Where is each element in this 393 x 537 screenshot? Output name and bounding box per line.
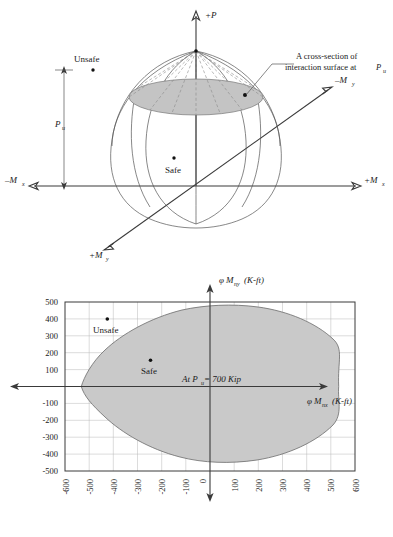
figure-svg: +P –M x +M x –M y +M y — [0, 0, 393, 537]
svg-text:-300: -300 — [133, 479, 143, 495]
svg-text:–M: –M — [4, 175, 18, 185]
svg-text:y: y — [351, 81, 355, 87]
callout-line1: A cross-section of — [296, 51, 358, 61]
my-neg-axis-label: –M y — [334, 75, 355, 87]
safe-point-label: Safe — [141, 366, 157, 376]
pu-dimension-label: P u — [54, 119, 65, 131]
unsafe-point-3d — [91, 68, 94, 71]
svg-text:-400: -400 — [42, 449, 58, 459]
apex-point — [194, 49, 198, 53]
svg-text:–M: –M — [334, 75, 348, 85]
callout-line2: interaction surface at P u — [285, 62, 386, 74]
svg-text:x: x — [381, 181, 385, 187]
unsafe-point-marker — [106, 317, 110, 321]
svg-text:y: y — [105, 256, 109, 262]
svg-text:= 700 Kip: = 700 Kip — [204, 374, 242, 384]
svg-text:100: 100 — [45, 365, 58, 375]
svg-text:φ: φ — [307, 396, 312, 406]
svg-text:x: x — [21, 181, 25, 187]
svg-text:At P: At P — [181, 374, 198, 384]
svg-text:+M: +M — [89, 250, 103, 260]
svg-text:400: 400 — [45, 314, 58, 324]
safe-label-3d: Safe — [165, 165, 181, 175]
svg-text:-300: -300 — [42, 432, 58, 442]
svg-text:interaction surface at: interaction surface at — [285, 62, 357, 72]
svg-text:(K-ft): (K-ft) — [244, 275, 264, 285]
svg-text:φ: φ — [219, 275, 224, 285]
y-axis-title: φ M ny (K-ft) — [219, 275, 264, 287]
svg-text:-500: -500 — [42, 466, 58, 476]
svg-text:u: u — [62, 125, 65, 131]
svg-text:600: 600 — [351, 479, 361, 492]
svg-text:ny: ny — [234, 281, 240, 287]
chart-point-unsafe: Unsafe — [93, 317, 119, 335]
svg-text:300: 300 — [278, 479, 288, 492]
safe-point-marker — [149, 359, 153, 363]
svg-text:(K-ft): (K-ft) — [332, 396, 352, 406]
svg-text:200: 200 — [254, 479, 264, 492]
svg-text:-200: -200 — [157, 479, 167, 495]
svg-text:500: 500 — [326, 479, 336, 492]
unsafe-point-label: Unsafe — [93, 325, 119, 335]
svg-text:400: 400 — [302, 479, 312, 492]
svg-text:0: 0 — [198, 479, 208, 483]
top-3d-diagram: +P –M x +M x –M y +M y — [4, 10, 386, 262]
svg-text:-600: -600 — [61, 479, 71, 495]
unsafe-label-3d: Unsafe — [74, 54, 100, 64]
svg-text:-100: -100 — [181, 479, 191, 495]
svg-text:u: u — [383, 68, 386, 74]
svg-text:-200: -200 — [42, 415, 58, 425]
svg-text:200: 200 — [45, 348, 58, 358]
svg-text:M: M — [225, 275, 234, 285]
my-pos-arrowhead — [104, 243, 114, 250]
svg-text:nx: nx — [322, 402, 328, 408]
figure-container: +P –M x +M x –M y +M y — [0, 0, 393, 537]
svg-text:-500: -500 — [85, 479, 95, 495]
svg-text:300: 300 — [45, 331, 58, 341]
mx-pos-axis-label: +M x — [364, 175, 385, 187]
svg-text:P: P — [375, 62, 381, 72]
svg-text:+M: +M — [364, 175, 378, 185]
svg-text:100: 100 — [230, 479, 240, 492]
svg-text:-100: -100 — [42, 398, 58, 408]
my-neg-arrowhead — [323, 87, 332, 94]
svg-text:-400: -400 — [109, 479, 119, 495]
svg-text:500: 500 — [45, 297, 58, 307]
svg-text:P: P — [54, 119, 61, 129]
mx-neg-axis-label: –M x — [4, 175, 25, 187]
my-pos-axis-label: +M y — [89, 250, 109, 262]
mx-axis — [29, 182, 361, 189]
p-axis-label: +P — [205, 10, 217, 20]
bottom-chart: φ M ny (K-ft) φ M nx (K-ft) 500 400 300 … — [10, 275, 361, 502]
svg-text:M: M — [313, 396, 322, 406]
safe-point-3d — [172, 156, 175, 159]
